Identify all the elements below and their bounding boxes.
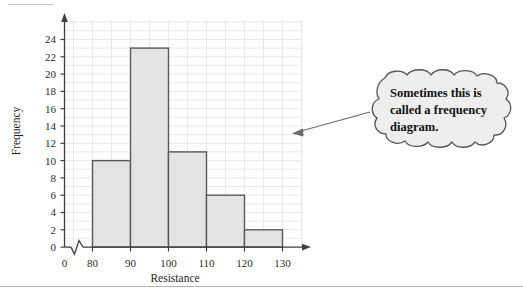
arrow-left-icon bbox=[292, 129, 304, 137]
figure-root: 0 2 4 6 8 10 12 14 16 18 20 22 24 0 80 9… bbox=[0, 0, 523, 293]
annotation-callout: Sometimes this is called a frequency dia… bbox=[0, 0, 523, 293]
bubble-line-1: Sometimes this is bbox=[390, 86, 482, 100]
bubble-line-3: diagram. bbox=[390, 120, 438, 134]
bubble-line-2: called a frequency bbox=[390, 103, 488, 117]
pointer-arrow-line bbox=[292, 112, 370, 137]
